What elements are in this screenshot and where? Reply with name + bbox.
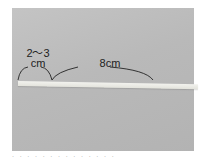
photo-background: 2～3 cm 8cm — [12, 8, 194, 151]
caption-fragment: · · · · · · · · · · · · · · — [12, 153, 194, 161]
measurement-short-label: 2～3 cm — [20, 48, 56, 68]
measurement-braces — [12, 8, 194, 151]
measurement-long-label: 8cm — [90, 58, 130, 68]
measurement-short-unit: cm — [20, 58, 56, 68]
